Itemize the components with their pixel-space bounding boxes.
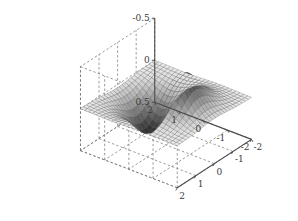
y-tick-label-1: 1 <box>171 115 177 124</box>
z-tick-label-2: -0.5 <box>132 14 149 23</box>
x-tick-label-1: -1 <box>235 155 244 164</box>
y-tick-label-2: 0 <box>195 124 201 133</box>
y-tick-label-3: -1 <box>217 134 226 143</box>
figure-canvas: 0.50-0.5210-1-2-2-1012 <box>0 0 298 221</box>
x-tick-label-3: 1 <box>198 179 204 188</box>
x-tick-label-2: 0 <box>216 167 222 176</box>
z-tick-label-1: 0 <box>144 56 150 65</box>
y-tick-label-4: -2 <box>241 143 250 152</box>
x-tick-label-0: -2 <box>254 143 263 152</box>
y-tick-label-0: 2 <box>147 106 153 115</box>
x-tick-label-4: 2 <box>179 191 185 200</box>
surface-mesh <box>80 60 251 145</box>
